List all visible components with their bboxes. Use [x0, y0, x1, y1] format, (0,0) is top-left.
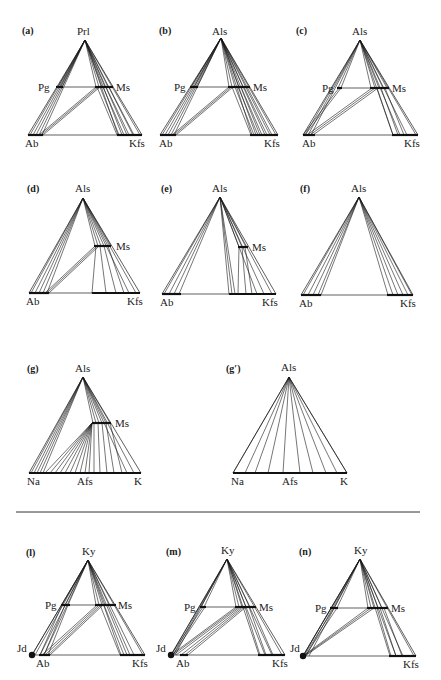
- tie-line: [181, 607, 242, 655]
- jadeite-point: [300, 653, 306, 659]
- tie-line: [45, 423, 92, 473]
- tie-line: [104, 605, 124, 655]
- panel-label-b: (b): [159, 25, 171, 37]
- tie-line: [45, 246, 95, 293]
- tie-line: [188, 607, 246, 655]
- tie-line: [173, 607, 205, 655]
- ab-label: Ab: [36, 657, 50, 669]
- ab-label: Ab: [299, 297, 313, 309]
- tie-line: [305, 608, 337, 656]
- tie-line: [39, 87, 96, 135]
- tie-line: [305, 608, 374, 656]
- tie-line: [60, 423, 92, 473]
- tie-line: [197, 38, 221, 87]
- tie-line: [176, 607, 240, 655]
- tie-line: [201, 559, 227, 607]
- tie-line: [247, 87, 272, 135]
- tie-line: [194, 38, 221, 87]
- tie-line: [171, 607, 203, 655]
- tie-line: [304, 608, 371, 656]
- tie-line: [191, 38, 221, 87]
- tie-line: [164, 197, 220, 294]
- tie-line: [173, 607, 238, 655]
- tie-line: [377, 608, 391, 656]
- ab-label: Ab: [159, 137, 173, 149]
- jd-label: Jd: [290, 642, 300, 654]
- tie-line: [106, 423, 114, 473]
- ab-label: Ab: [25, 137, 39, 149]
- ab-label: Ab: [160, 296, 174, 308]
- tie-line: [252, 607, 273, 655]
- na-label: Na: [27, 475, 40, 487]
- kfs-label: Kfs: [264, 137, 280, 149]
- tie-line: [171, 607, 236, 655]
- ab-label: Ab: [302, 137, 316, 149]
- tie-line: [47, 246, 97, 293]
- tie-line: [65, 423, 92, 473]
- tie-line: [62, 560, 88, 605]
- tie-line: [174, 87, 231, 135]
- ms-label: Ms: [253, 81, 267, 93]
- panel-label-f: (f): [300, 183, 310, 195]
- kfs-label: Kfs: [127, 295, 143, 307]
- apex-label-als: Als: [75, 182, 90, 194]
- jd-label: Jd: [156, 642, 166, 654]
- panel-label-a: (a): [22, 25, 34, 37]
- kfs-label: Kfs: [129, 137, 145, 149]
- pg-label: Pg: [322, 82, 334, 94]
- pg-label: Pg: [184, 601, 196, 613]
- na-label: Na: [231, 475, 244, 487]
- panel-label-c: (c): [296, 25, 307, 37]
- tie-line: [289, 377, 337, 473]
- apex-label-als: Als: [281, 361, 296, 373]
- tie-line: [359, 197, 393, 295]
- tie-line: [83, 377, 93, 423]
- tie-line: [42, 605, 97, 655]
- tie-line: [169, 197, 220, 294]
- tie-line: [304, 608, 334, 656]
- ms-label: Ms: [252, 241, 266, 253]
- tie-line: [311, 40, 360, 135]
- tie-line: [227, 559, 239, 607]
- tie-line: [303, 608, 368, 656]
- tie-line: [359, 197, 403, 295]
- kfs-label: Kfs: [403, 658, 419, 670]
- ms-label: Ms: [392, 82, 406, 94]
- panel-label-l: (l): [26, 547, 35, 559]
- ms-label: Ms: [118, 599, 132, 611]
- tie-line: [43, 198, 83, 293]
- k-label: K: [340, 475, 348, 487]
- tie-line: [310, 88, 375, 135]
- tie-line: [88, 560, 121, 655]
- tie-line: [41, 87, 98, 135]
- tie-line: [204, 559, 227, 607]
- apex-label-als: Als: [212, 182, 227, 194]
- pg-label: Pg: [315, 602, 327, 614]
- tie-line: [303, 197, 359, 295]
- panel-label-d: (d): [27, 183, 39, 195]
- tie-line: [179, 197, 220, 294]
- tie-line: [45, 605, 99, 655]
- tie-line: [35, 198, 83, 293]
- jadeite-point: [168, 652, 174, 658]
- tie-line: [104, 246, 116, 293]
- tie-line: [49, 246, 99, 293]
- tie-line: [384, 608, 402, 656]
- tie-line: [43, 87, 100, 135]
- tie-line: [318, 197, 359, 295]
- ms-label: Ms: [116, 240, 130, 252]
- tie-line: [83, 198, 101, 246]
- tie-line: [235, 87, 254, 135]
- tie-line: [47, 198, 83, 293]
- tie-line: [100, 246, 106, 293]
- tie-line: [83, 377, 96, 423]
- tie-line: [39, 198, 83, 293]
- tie-line: [321, 197, 359, 295]
- tie-line: [385, 88, 404, 135]
- tie-line: [242, 247, 246, 294]
- apex-label-als: Als: [75, 362, 90, 374]
- jd-label: Jd: [17, 642, 27, 654]
- tie-line: [62, 40, 85, 87]
- tie-line: [48, 605, 101, 655]
- tie-line: [338, 40, 360, 88]
